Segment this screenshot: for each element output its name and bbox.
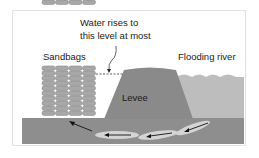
callout-text-line2: this level at most	[80, 31, 151, 41]
callout-arrowhead	[107, 69, 111, 73]
sandbags-label: Sandbags	[43, 52, 86, 62]
callout-text-line1: Water rises to	[80, 18, 138, 28]
levee	[104, 68, 193, 120]
river-label: Flooding river	[178, 52, 236, 62]
levee-label: Levee	[122, 93, 148, 103]
ground	[22, 118, 244, 144]
callout-pointer	[109, 46, 116, 70]
